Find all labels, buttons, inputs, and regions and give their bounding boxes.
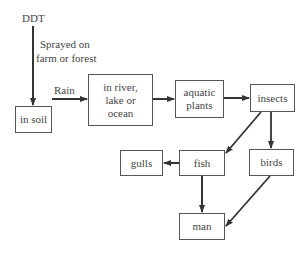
ddt-food-chain-diagram: DDT Sprayed on farm or forest Rain in so… bbox=[0, 0, 308, 253]
node-plants-line1: aquatic bbox=[184, 86, 216, 99]
node-fish: fish bbox=[179, 150, 225, 176]
node-water: in river, lake or ocean bbox=[88, 74, 153, 126]
node-fish-text: fish bbox=[194, 157, 211, 170]
node-gulls-text: gulls bbox=[131, 157, 152, 170]
sprayed-label-line2: farm or forest bbox=[36, 51, 96, 65]
node-birds: birds bbox=[249, 149, 294, 176]
rain-label: Rain bbox=[54, 84, 75, 97]
node-man: man bbox=[179, 213, 225, 240]
node-insects-text: insects bbox=[258, 92, 288, 105]
arrow-birds-to-man bbox=[226, 176, 270, 226]
node-plants-line2: plants bbox=[184, 99, 216, 112]
node-gulls: gulls bbox=[120, 150, 163, 176]
node-soil: in soil bbox=[15, 106, 52, 133]
node-water-line2: lake or bbox=[103, 94, 137, 107]
node-water-line1: in river, bbox=[103, 81, 137, 94]
node-insects: insects bbox=[250, 84, 295, 112]
node-man-text: man bbox=[193, 220, 212, 233]
sprayed-label: Sprayed on farm or forest bbox=[40, 37, 96, 65]
node-aquatic-plants: aquatic plants bbox=[175, 80, 224, 118]
arrow-insects-to-fish bbox=[226, 112, 261, 153]
sprayed-label-line1: Sprayed on bbox=[40, 37, 96, 51]
node-water-line3: ocean bbox=[103, 107, 137, 120]
node-soil-text: in soil bbox=[20, 113, 47, 126]
ddt-label: DDT bbox=[22, 12, 45, 25]
node-birds-text: birds bbox=[261, 156, 283, 169]
